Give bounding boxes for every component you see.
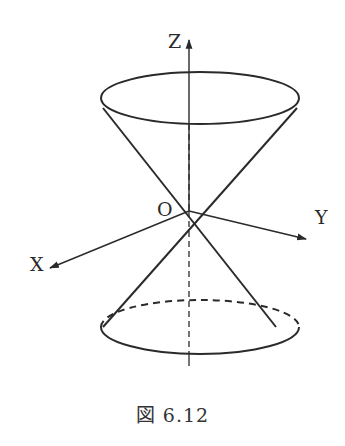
cone-line-right xyxy=(103,108,297,327)
z-axis-label: Z xyxy=(168,32,181,51)
top-cone-base xyxy=(101,72,299,124)
figure-caption: 図 6.12 xyxy=(0,400,345,427)
bottom-cone-base-hidden xyxy=(101,300,299,327)
figure-canvas: Z O X Y 図 6.12 xyxy=(0,0,345,446)
origin-label: O xyxy=(157,200,173,219)
y-axis xyxy=(189,211,306,239)
y-axis-label: Y xyxy=(315,208,328,227)
x-axis-label: X xyxy=(30,255,44,274)
bottom-cone-base-visible xyxy=(101,327,299,354)
double-cone-diagram xyxy=(0,0,345,446)
